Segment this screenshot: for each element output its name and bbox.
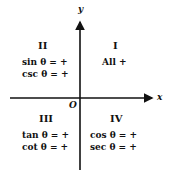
quadrant-iv-line-2: sec θ = + <box>90 143 137 152</box>
quadrant-i-title: I <box>113 41 118 51</box>
quadrant-ii-line-1: sin θ = + <box>22 58 68 67</box>
quadrant-iii-line-1: tan θ = + <box>22 131 69 140</box>
quadrant-ii-line-2: csc θ = + <box>22 70 69 79</box>
quadrant-iii-title: III <box>39 114 53 124</box>
y-axis-label: y <box>78 5 83 14</box>
quadrant-iii-line-2: cot θ = + <box>22 143 68 152</box>
trig-quadrant-diagram: y x O II sin θ = + csc θ = + I All + III… <box>0 0 174 177</box>
quadrant-iv-line-1: cos θ = + <box>90 131 137 140</box>
origin-label: O <box>69 101 77 110</box>
quadrant-i-line-1: All + <box>102 58 127 67</box>
x-axis-label: x <box>157 93 162 102</box>
quadrant-ii-title: II <box>38 41 47 51</box>
quadrant-iv-title: IV <box>110 114 122 124</box>
